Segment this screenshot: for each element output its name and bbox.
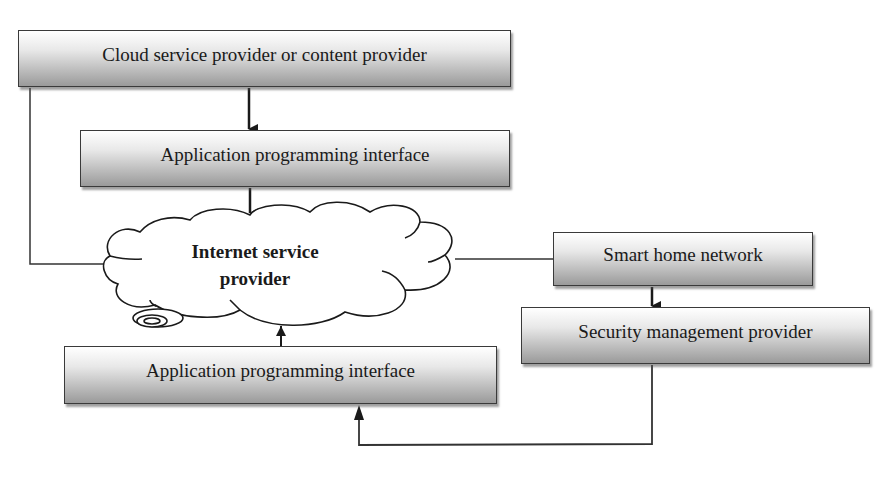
node-label: Smart home network [603,244,762,266]
node-smart-home-network: Smart home network [553,232,813,286]
node-api-top: Application programming interface [80,130,510,187]
arrowhead-up-isp [276,326,286,336]
node-cloud-service-provider: Cloud service provider or content provid… [18,30,511,87]
node-label: Security management provider [578,321,812,343]
node-security-management-provider: Security management provider [521,307,870,364]
node-label: Application programming interface [146,360,415,382]
node-label-line2: provider [175,265,335,292]
node-internet-service-provider: Internet service provider [175,238,335,292]
node-label-line1: Internet service [175,238,335,265]
node-label: Application programming interface [160,144,429,166]
node-label: Cloud service provider or content provid… [102,44,426,66]
node-api-bottom: Application programming interface [64,346,497,404]
arrowhead-up-api-bottom [354,405,364,420]
